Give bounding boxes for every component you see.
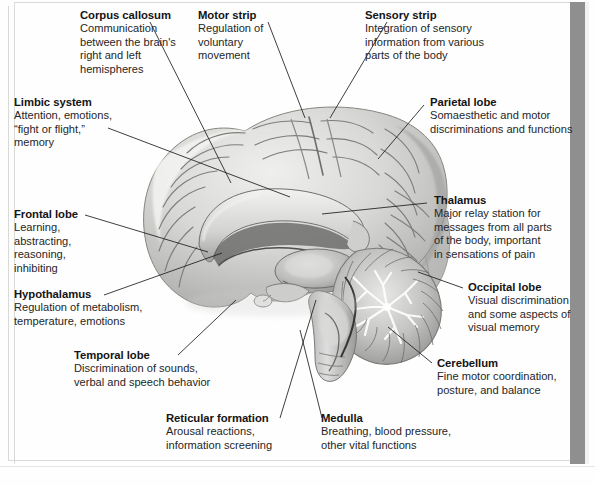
label-heading: Corpus callosum (80, 9, 176, 22)
label-body-line: Integration of sensory (365, 22, 484, 35)
label-body-line: movement (198, 49, 263, 62)
label-heading: Motor strip (198, 9, 263, 22)
label-body-line: posture, and balance (437, 384, 557, 397)
label-body-line: parts of the body (365, 49, 484, 62)
label-body-line: Regulation of metabolism, (14, 301, 142, 314)
label-body-line: Arousal reactions, (166, 425, 272, 438)
frame-rule-left-outer (8, 6, 9, 461)
label-body-line: voluntary (198, 36, 263, 49)
label-parietal-lobe: Parietal lobe Somaesthetic and motor dis… (430, 96, 572, 136)
label-thalamus: Thalamus Major relay station for message… (434, 194, 552, 261)
page-edge-highlight (585, 2, 589, 464)
label-reticular-formation: Reticular formation Arousal reactions, i… (166, 412, 272, 452)
page-edge-shadow-bar (570, 2, 585, 464)
label-heading: Temporal lobe (74, 349, 210, 362)
label-body-line: between the brain's (80, 36, 176, 49)
label-body-line: Fine motor coordination, (437, 370, 557, 383)
label-body-line: information screening (166, 439, 272, 452)
label-body-line: Major relay station for (434, 207, 552, 220)
label-body-line: Breathing, blood pressure, (321, 425, 451, 438)
label-corpus-callosum: Corpus callosum Communication between th… (80, 9, 176, 76)
frame-rule-top (14, 2, 570, 3)
label-body-line: Discrimination of sounds, (74, 362, 210, 375)
label-body-line: Somaesthetic and motor (430, 109, 572, 122)
label-heading: Limbic system (14, 96, 112, 109)
label-body-line: right and left (80, 49, 176, 62)
label-body-line: “fight or flight,” (14, 123, 112, 136)
label-body-line: inhibiting (14, 262, 78, 275)
label-body-line: of the body, important (434, 234, 552, 247)
label-body-line: hemispheres (80, 63, 176, 76)
label-body-line: Regulation of (198, 22, 263, 35)
label-heading: Hypothalamus (14, 288, 142, 301)
label-heading: Frontal lobe (14, 208, 78, 221)
label-body-line: reasoning, (14, 248, 78, 261)
label-body-line: memory (14, 136, 112, 149)
label-motor-strip: Motor strip Regulation of voluntary move… (198, 9, 263, 63)
label-body-line: other vital functions (321, 439, 451, 452)
figure-page: Corpus callosum Communication between th… (0, 0, 595, 485)
label-body-line: and some aspects of (468, 308, 570, 321)
label-body-line: Visual discrimination (468, 294, 570, 307)
label-heading: Occipital lobe (468, 281, 570, 294)
brain-illustration (95, 95, 475, 390)
frame-rule-bottom-outer (0, 466, 595, 467)
frame-rule-bottom (8, 460, 570, 461)
label-medulla: Medulla Breathing, blood pressure, other… (321, 412, 451, 452)
label-limbic-system: Limbic system Attention, emotions, “figh… (14, 96, 112, 150)
label-heading: Sensory strip (365, 9, 484, 22)
label-frontal-lobe: Frontal lobe Learning, abstracting, reas… (14, 208, 78, 275)
label-body-line: discriminations and functions (430, 123, 572, 136)
label-body-line: Learning, (14, 221, 78, 234)
label-heading: Reticular formation (166, 412, 272, 425)
label-sensory-strip: Sensory strip Integration of sensory inf… (365, 9, 484, 63)
label-body-line: Attention, emotions, (14, 109, 112, 122)
label-heading: Cerebellum (437, 357, 557, 370)
label-body-line: temperature, emotions (14, 315, 142, 328)
label-temporal-lobe: Temporal lobe Discrimination of sounds, … (74, 349, 210, 389)
label-body-line: Communication (80, 22, 176, 35)
label-body-line: verbal and speech behavior (74, 376, 210, 389)
label-body-line: in sensations of pain (434, 248, 552, 261)
label-body-line: visual memory (468, 321, 570, 334)
label-cerebellum: Cerebellum Fine motor coordination, post… (437, 357, 557, 397)
label-heading: Medulla (321, 412, 451, 425)
label-heading: Parietal lobe (430, 96, 572, 109)
label-body-line: messages from all parts (434, 221, 552, 234)
label-body-line: information from various (365, 36, 484, 49)
label-heading: Thalamus (434, 194, 552, 207)
label-body-line: abstracting, (14, 235, 78, 248)
label-hypothalamus: Hypothalamus Regulation of metabolism, t… (14, 288, 142, 328)
label-occipital-lobe: Occipital lobe Visual discrimination and… (468, 281, 570, 335)
